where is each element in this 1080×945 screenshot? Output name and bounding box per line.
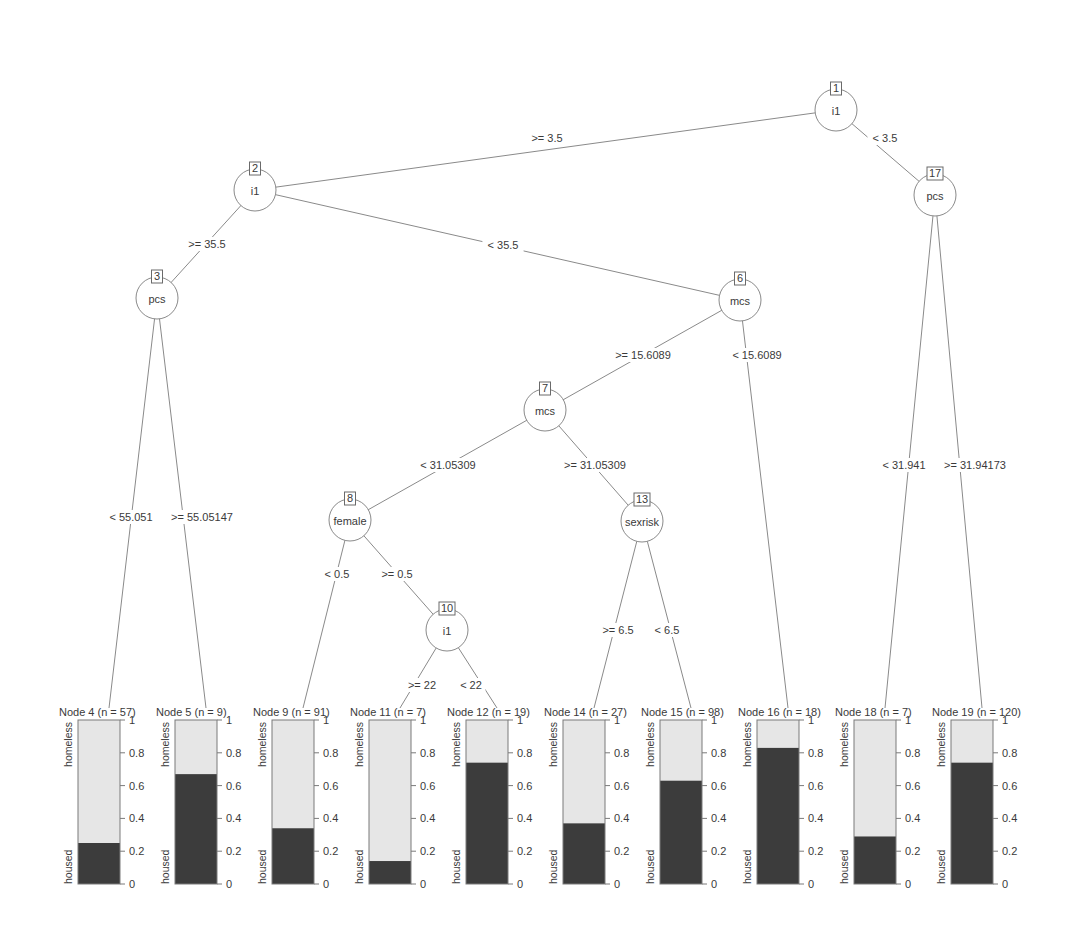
edge-label: >= 31.94173 bbox=[939, 458, 1011, 472]
node-id: 17 bbox=[929, 167, 941, 179]
terminal-node-5: Node 5 (n = 9)homelesshoused00.20.40.60.… bbox=[156, 706, 241, 890]
split-condition-text: >= 15.6089 bbox=[615, 349, 671, 361]
terminal-node-header: Node 18 (n = 7) bbox=[835, 706, 912, 718]
tree-edge bbox=[255, 110, 836, 190]
class-label-housed: housed bbox=[353, 849, 365, 884]
axis-tick-label: 0 bbox=[614, 878, 620, 890]
axis-tick-label: 0.2 bbox=[1002, 845, 1017, 857]
axis-tick-label: 1 bbox=[614, 714, 620, 726]
edge-label: < 35.5 bbox=[482, 238, 523, 252]
class-label-housed: housed bbox=[644, 849, 656, 884]
edge-label: >= 31.05309 bbox=[559, 458, 631, 472]
class-label-housed: housed bbox=[159, 849, 171, 884]
inner-node-7: 7mcs bbox=[524, 382, 566, 431]
axis-tick-label: 0.4 bbox=[1002, 812, 1017, 824]
axis-tick-label: 0 bbox=[129, 878, 135, 890]
terminal-node-18: Node 18 (n = 7)homelesshoused00.20.40.60… bbox=[835, 706, 920, 890]
tree-edge bbox=[594, 521, 642, 708]
homeless-bar bbox=[466, 720, 508, 763]
terminal-node-15: Node 15 (n = 98)homelesshoused00.20.40.6… bbox=[641, 706, 726, 890]
terminal-node-header: Node 11 (n = 7) bbox=[350, 706, 426, 718]
node-id: 8 bbox=[347, 492, 353, 504]
axis-tick-label: 1 bbox=[420, 714, 426, 726]
axis-tick-label: 0.6 bbox=[420, 780, 435, 792]
axis-tick-label: 0.2 bbox=[614, 845, 629, 857]
edge-label: >= 15.6089 bbox=[610, 348, 676, 362]
inner-node-8: 8female bbox=[329, 492, 371, 541]
edge-label: < 0.5 bbox=[320, 567, 355, 581]
split-condition-text: >= 0.5 bbox=[381, 568, 412, 580]
homeless-bar bbox=[660, 720, 702, 781]
split-variable: i1 bbox=[251, 185, 260, 197]
edge-label: < 22 bbox=[457, 678, 486, 692]
axis-tick-label: 0.4 bbox=[614, 812, 629, 824]
node-id: 7 bbox=[542, 382, 548, 394]
homeless-bar bbox=[563, 720, 605, 823]
axis-tick-label: 0.4 bbox=[323, 812, 338, 824]
axis-tick-label: 1 bbox=[129, 714, 135, 726]
axis-tick-label: 0.4 bbox=[420, 812, 435, 824]
axis-tick-label: 1 bbox=[808, 714, 814, 726]
housed-bar bbox=[369, 861, 411, 884]
split-condition-text: < 22 bbox=[460, 679, 482, 691]
axis-tick-label: 0 bbox=[711, 878, 717, 890]
class-label-homeless: homeless bbox=[159, 722, 171, 767]
axis-tick-label: 0.2 bbox=[517, 845, 532, 857]
axis-tick-label: 0 bbox=[808, 878, 814, 890]
class-label-housed: housed bbox=[450, 849, 462, 884]
axis-tick-label: 0.6 bbox=[808, 780, 823, 792]
axis-tick-label: 0.6 bbox=[711, 780, 726, 792]
split-condition-text: < 31.05309 bbox=[420, 459, 475, 471]
terminal-node-14: Node 14 (n = 27)homelesshoused00.20.40.6… bbox=[544, 706, 629, 890]
homeless-bar bbox=[757, 720, 799, 748]
split-condition-text: < 6.5 bbox=[655, 624, 680, 636]
terminal-node-4: Node 4 (n = 57)homelesshoused00.20.40.60… bbox=[59, 706, 144, 890]
class-label-homeless: homeless bbox=[838, 722, 850, 767]
axis-tick-label: 0.8 bbox=[129, 747, 144, 759]
node-id: 13 bbox=[636, 493, 648, 505]
housed-bar bbox=[78, 843, 120, 884]
axis-tick-label: 0.8 bbox=[226, 747, 241, 759]
split-condition-text: < 3.5 bbox=[873, 132, 898, 144]
housed-bar bbox=[272, 828, 314, 884]
inner-node-2: 2i1 bbox=[234, 162, 276, 211]
axis-tick-label: 0.4 bbox=[905, 812, 920, 824]
axis-tick-label: 0.2 bbox=[905, 845, 920, 857]
node-id: 3 bbox=[154, 270, 160, 282]
edge-label: < 6.5 bbox=[650, 623, 685, 637]
edge-label: >= 35.5 bbox=[183, 237, 230, 251]
class-label-housed: housed bbox=[62, 849, 74, 884]
axis-tick-label: 0.8 bbox=[1002, 747, 1017, 759]
class-label-homeless: homeless bbox=[450, 722, 462, 767]
axis-tick-label: 0.6 bbox=[905, 780, 920, 792]
inner-nodes-layer: 1i12i13pcs6mcs7mcs8female10i113sexrisk17… bbox=[136, 82, 956, 651]
axis-tick-label: 0.4 bbox=[517, 812, 532, 824]
axis-tick-label: 0 bbox=[420, 878, 426, 890]
axis-tick-label: 0.2 bbox=[323, 845, 338, 857]
split-condition-text: < 0.5 bbox=[325, 568, 350, 580]
housed-bar bbox=[466, 763, 508, 884]
inner-node-1: 1i1 bbox=[815, 82, 857, 131]
class-label-homeless: homeless bbox=[547, 722, 559, 767]
tree-edge bbox=[157, 298, 206, 708]
class-label-homeless: homeless bbox=[741, 722, 753, 767]
split-variable: sexrisk bbox=[625, 516, 660, 528]
inner-node-3: 3pcs bbox=[136, 270, 178, 319]
class-label-housed: housed bbox=[838, 849, 850, 884]
split-condition-text: < 55.051 bbox=[109, 511, 152, 523]
class-label-housed: housed bbox=[741, 849, 753, 884]
axis-tick-label: 1 bbox=[1002, 714, 1008, 726]
class-label-homeless: homeless bbox=[256, 722, 268, 767]
axis-tick-label: 1 bbox=[226, 714, 232, 726]
axis-tick-label: 0.4 bbox=[226, 812, 241, 824]
split-condition-text: >= 35.5 bbox=[188, 238, 225, 250]
housed-bar bbox=[757, 748, 799, 884]
axis-tick-label: 0 bbox=[905, 878, 911, 890]
axis-tick-label: 0.8 bbox=[808, 747, 823, 759]
axis-tick-label: 0.6 bbox=[517, 780, 532, 792]
split-condition-text: < 15.6089 bbox=[732, 349, 781, 361]
terminal-node-16: Node 16 (n = 18)homelesshoused00.20.40.6… bbox=[738, 706, 823, 890]
split-variable: female bbox=[333, 515, 366, 527]
axis-tick-label: 0 bbox=[1002, 878, 1008, 890]
split-variable: mcs bbox=[730, 295, 751, 307]
